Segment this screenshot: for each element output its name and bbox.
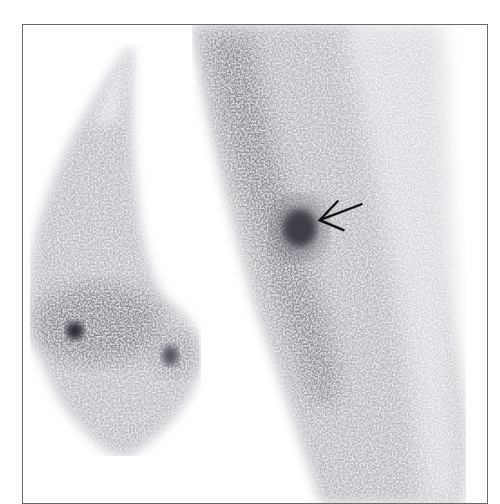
scintigraphy-image (23, 25, 487, 503)
left-structure (31, 45, 201, 456)
image-frame (22, 24, 488, 504)
right-structure (192, 25, 465, 503)
secondary-hot-spot (66, 322, 84, 340)
